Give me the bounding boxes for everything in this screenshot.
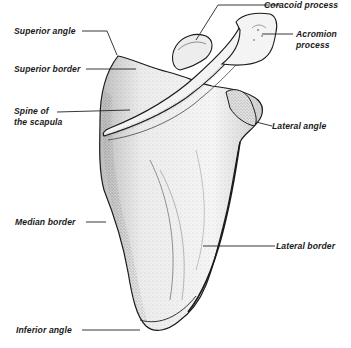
label-acromion-line1: Acromion	[296, 29, 337, 39]
label-lateral-border: Lateral border	[276, 241, 335, 251]
label-superior-border: Superior border	[14, 64, 80, 74]
label-spine-line2: the scapula	[14, 117, 62, 127]
coracoid	[173, 34, 212, 70]
label-superior-angle: Superior angle	[14, 26, 76, 36]
label-coracoid-process: Coracoid process	[264, 0, 338, 10]
leader-superior-angle	[82, 31, 117, 55]
label-acromion-line2: process	[296, 40, 330, 50]
scapula-diagram: Superior angle Superior border Spine of …	[0, 0, 351, 348]
leader-lateral-angle	[256, 122, 272, 126]
label-spine-line1: Spine of	[14, 106, 49, 116]
label-median-border: Median border	[15, 217, 76, 227]
scapula-illustration	[0, 0, 351, 348]
label-lateral-angle: Lateral angle	[272, 121, 326, 131]
label-inferior-angle: Inferior angle	[16, 325, 72, 335]
acromion	[222, 13, 277, 65]
